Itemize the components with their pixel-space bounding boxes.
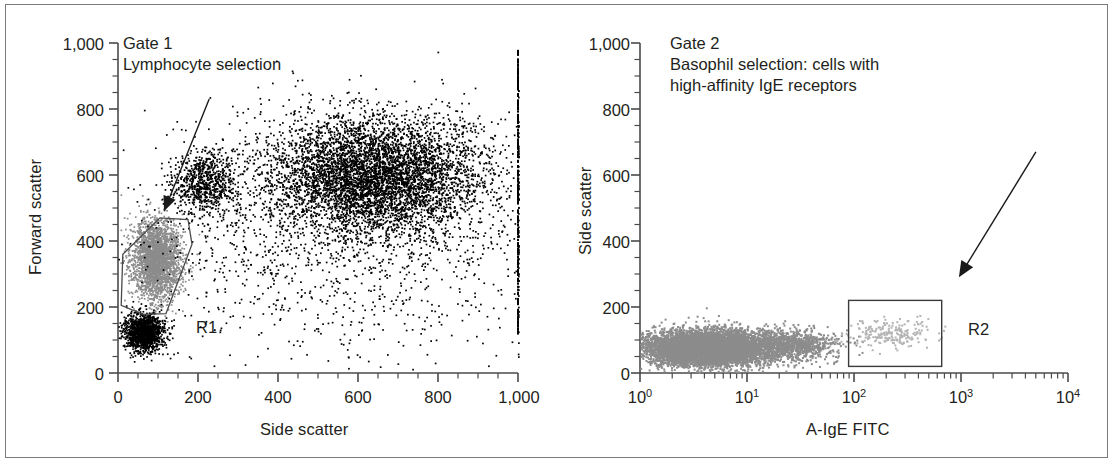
gate1-dot-cloud [118, 52, 520, 371]
gate2-plot-canvas [554, 0, 1114, 465]
gate2-region-rect-r2[interactable] [849, 300, 942, 366]
gate1-plot-canvas [0, 0, 554, 465]
gate2-dot-cloud [640, 307, 946, 373]
gate2-y-axis-ticks [631, 43, 640, 373]
gate1-x-axis-ticks [118, 373, 518, 382]
gate2-axis-lines [640, 43, 1068, 373]
gate1-y-axis-ticks [109, 43, 118, 373]
gate2-x-axis-ticks [640, 373, 1068, 382]
panel-gate2: Gate 2 Basophil selection: cells with hi… [554, 0, 1114, 465]
gate1-saturation-column [517, 50, 519, 335]
gate2-annotation-arrow [959, 152, 1036, 277]
flow-cytometry-figure: Gate 1 Lymphocyte selection Forward scat… [0, 0, 1114, 465]
panel-gate1: Gate 1 Lymphocyte selection Forward scat… [0, 0, 554, 465]
